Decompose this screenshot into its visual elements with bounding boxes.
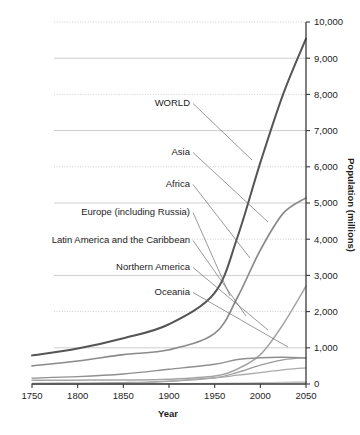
series-label-asia: Asia [172, 146, 191, 157]
series-label-latin-america-and-the-caribbean: Latin America and the Caribbean [52, 234, 190, 245]
series-label-northern-america: Northern America [116, 261, 191, 272]
y-tick-label: 1,000 [314, 342, 338, 353]
x-tick-label: 2000 [250, 390, 271, 401]
series-label-world: WORLD [155, 97, 191, 108]
x-tick-label: 1950 [204, 390, 225, 401]
x-tick-group: 1750180018501900195020002050 [21, 384, 316, 401]
x-tick-label: 2050 [295, 390, 316, 401]
x-tick-label: 1850 [113, 390, 134, 401]
y-tick-label: 5,000 [314, 197, 338, 208]
y-tick-label: 8,000 [314, 89, 338, 100]
chart-canvas: 01,0002,0003,0004,0005,0006,0007,0008,00… [0, 0, 360, 435]
y-tick-label: 7,000 [314, 125, 338, 136]
series-curve-africa [32, 286, 306, 380]
series-label-europe-including-russia: Europe (including Russia) [81, 206, 190, 217]
leader-line-world [193, 104, 252, 161]
y-tick-label: 6,000 [314, 161, 338, 172]
y-axis-title: Population (millions) [346, 158, 357, 252]
series-curve-northern-america [32, 368, 306, 384]
series-label-africa: Africa [166, 178, 191, 189]
x-tick-label: 1750 [21, 390, 42, 401]
x-tick-label: 1900 [158, 390, 179, 401]
y-tick-group: 01,0002,0003,0004,0005,0006,0007,0008,00… [306, 16, 343, 389]
x-tick-label: 1800 [67, 390, 88, 401]
y-tick-label: 4,000 [314, 234, 338, 245]
y-tick-label: 9,000 [314, 53, 338, 64]
series-label-oceania: Oceania [155, 286, 191, 297]
y-tick-label: 3,000 [314, 270, 338, 281]
series-curve-world [32, 39, 306, 356]
series-curve-europe-including-russia [32, 357, 306, 378]
y-tick-label: 2,000 [314, 306, 338, 317]
x-axis-title: Year [158, 408, 178, 419]
series-curve-asia [32, 198, 306, 366]
series-label-group: WORLDAsiaAfricaEurope (including Russia)… [52, 97, 191, 297]
y-tick-label: 10,000 [314, 16, 343, 27]
y-tick-label: 0 [314, 378, 319, 389]
leader-line-asia [193, 153, 268, 223]
leader-line-africa [193, 185, 250, 259]
population-growth-chart: 01,0002,0003,0004,0005,0006,0007,0008,00… [0, 0, 360, 435]
